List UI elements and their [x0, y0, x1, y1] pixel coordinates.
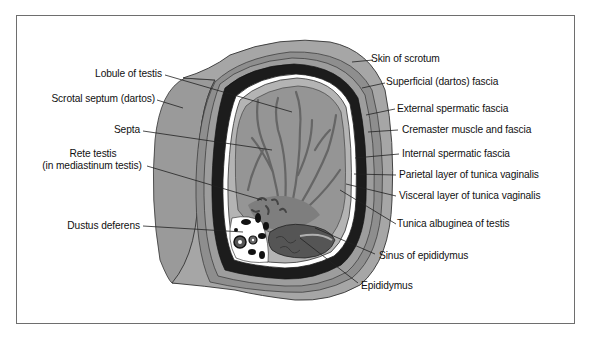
label-superficial-fascia: Superficial (dartos) fascia [386, 76, 498, 87]
label-scrotal-septum: Scrotal septum (dartos) [30, 93, 155, 104]
label-epididymus: Epididymus [361, 280, 413, 291]
label-ductus-deferens: Dustus deferens [50, 220, 140, 231]
label-sinus-of-epididymus: Sinus of epididymus [379, 250, 468, 261]
label-skin-of-scrotum: Skin of scrotum [371, 53, 440, 64]
label-internal-spermatic-fascia: Internal spermatic fascia [402, 148, 510, 159]
label-visceral-layer: Visceral layer of tunica vaginalis [399, 190, 540, 201]
label-septa: Septa [80, 124, 140, 135]
label-rete-testis: Rete testis [38, 148, 148, 159]
label-parietal-layer: Parietal layer of tunica vaginalis [399, 169, 539, 180]
label-external-spermatic-fascia: External spermatic fascia [397, 103, 508, 114]
label-rete-testis-location: (in mediastinum testis) [36, 160, 148, 171]
label-tunica-albuginea: Tunica albuginea of testis [397, 218, 510, 229]
label-lobule-of-testis: Lobule of testis [60, 68, 162, 79]
label-cremaster-muscle: Cremaster muscle and fascia [402, 124, 531, 135]
